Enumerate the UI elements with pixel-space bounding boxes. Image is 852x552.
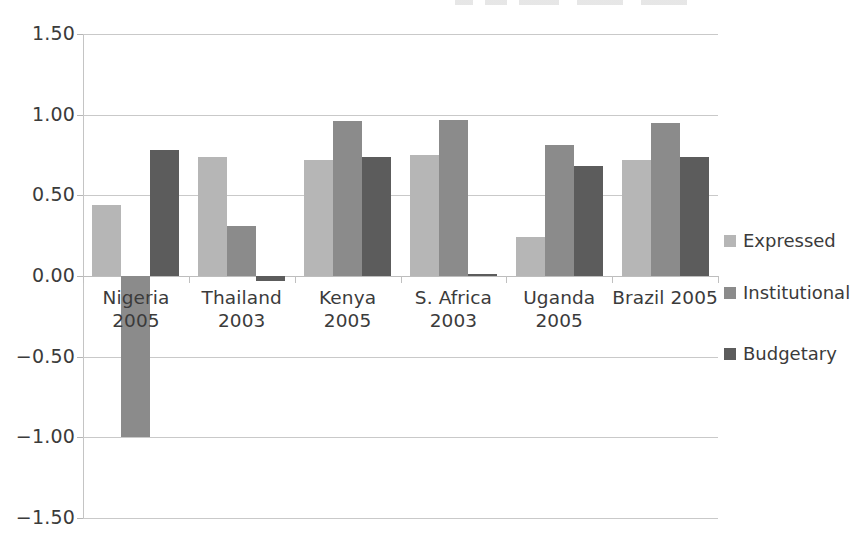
legend-swatch-icon [724, 287, 736, 299]
bar-chart: 1.501.000.500.00−0.50−1.00−1.50 Nigeria … [0, 0, 852, 552]
y-axis-tick-label: −1.50 [3, 508, 75, 527]
gridline [83, 437, 718, 438]
legend-label: Expressed [743, 232, 836, 250]
y-axis-tick-label: 1.00 [3, 105, 75, 124]
gridline [83, 518, 718, 519]
bar-budgetary-3 [468, 274, 497, 276]
x-axis-tick [612, 276, 613, 283]
bar-budgetary-5 [680, 157, 709, 276]
y-axis-tick-label: −1.00 [3, 427, 75, 446]
category-label: S. Africa 2003 [401, 286, 507, 332]
legend-item-institutional[interactable]: Institutional [724, 284, 850, 302]
gridline [83, 34, 718, 35]
bar-budgetary-4 [574, 166, 603, 276]
legend-label: Budgetary [743, 345, 837, 363]
bar-institutional-3 [439, 120, 468, 276]
y-axis-tick-label: 1.50 [3, 24, 75, 43]
bar-institutional-5 [651, 123, 680, 276]
gridline [83, 115, 718, 116]
x-axis-tick [189, 276, 190, 283]
x-axis-tick [506, 276, 507, 283]
x-axis-tick [718, 276, 719, 283]
category-label: Kenya 2005 [295, 286, 401, 332]
category-label: Nigeria 2005 [83, 286, 189, 332]
x-axis-tick [295, 276, 296, 283]
bar-expressed-4 [516, 237, 545, 276]
y-axis-tick-label: 0.50 [3, 185, 75, 204]
bar-institutional-2 [333, 121, 362, 276]
bar-expressed-5 [622, 160, 651, 276]
y-axis-tick-label: −0.50 [3, 347, 75, 366]
bar-budgetary-2 [362, 157, 391, 276]
bar-budgetary-0 [150, 150, 179, 276]
category-label: Thailand 2003 [189, 286, 295, 332]
legend-swatch-icon [724, 235, 736, 247]
category-label: Brazil 2005 [612, 286, 718, 309]
y-axis-labels: 1.501.000.500.00−0.50−1.00−1.50 [0, 0, 75, 552]
bar-expressed-3 [410, 155, 439, 276]
bar-expressed-2 [304, 160, 333, 276]
bar-budgetary-1 [256, 276, 285, 281]
x-axis-tick [401, 276, 402, 283]
bar-expressed-1 [198, 157, 227, 276]
x-axis-tick [83, 276, 84, 283]
legend-label: Institutional [743, 284, 850, 302]
legend-item-budgetary[interactable]: Budgetary [724, 345, 837, 363]
y-axis-tick-label: 0.00 [3, 266, 75, 285]
bar-expressed-0 [92, 205, 121, 276]
legend-item-expressed[interactable]: Expressed [724, 232, 836, 250]
legend-swatch-icon [724, 348, 736, 360]
scan-artifact [455, 0, 745, 5]
gridline [83, 357, 718, 358]
bar-institutional-4 [545, 145, 574, 276]
category-label: Uganda 2005 [506, 286, 612, 332]
bar-institutional-1 [227, 226, 256, 276]
